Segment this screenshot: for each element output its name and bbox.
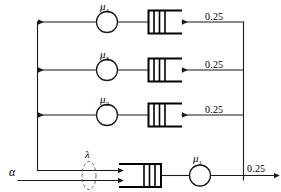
branch-rate-lower: 0.25 <box>205 105 223 115</box>
lambda-label: λ <box>85 149 90 160</box>
output-rate-label: 0.25 <box>247 164 265 174</box>
queue-q4 <box>149 11 183 34</box>
server-mu-2-label: μ2 <box>100 94 109 108</box>
branch-rate-middle: 0.25 <box>205 60 223 70</box>
branch-rate-top: 0.25 <box>205 12 223 22</box>
alpha-input-label: α <box>9 166 15 178</box>
server-mu-1-circle <box>190 165 211 186</box>
server-mu-3-label: μ3 <box>100 49 109 63</box>
queue-q2 <box>149 104 183 127</box>
server-mu-4-label: μ4 <box>100 1 109 15</box>
lambda-cut-ellipse <box>82 162 96 190</box>
queue-q3 <box>149 59 183 82</box>
server-mu-1-label: μ1 <box>193 153 202 167</box>
queue-q1 <box>119 164 161 187</box>
queueing-network-diagram: μ4 μ3 μ2 μ1 0.25 0.25 0.25 0.25 α λ <box>0 0 281 192</box>
network-canvas <box>0 0 281 192</box>
